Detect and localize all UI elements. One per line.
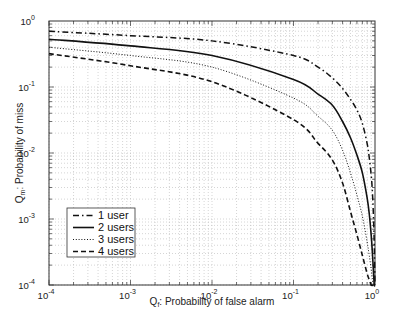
legend-label: 3 users [98, 233, 135, 245]
legend: 1 user2 users3 users4 users [67, 208, 135, 257]
y-axis-label: Qm: Probability of miss [14, 103, 26, 203]
legend-label: 4 users [98, 245, 135, 257]
legend-label: 2 users [98, 221, 135, 233]
roc-chart: 10-410-310-210-1100 10010-110-210-310-4 … [0, 0, 397, 328]
x-axis-label: Qf: Probability of false alarm [150, 296, 275, 308]
legend-label: 1 user [98, 209, 129, 221]
chart-background [0, 0, 397, 328]
